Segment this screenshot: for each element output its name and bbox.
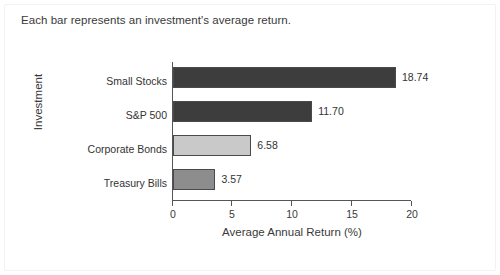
- category-label: Treasury Bills: [104, 177, 167, 189]
- category-label: Small Stocks: [106, 75, 167, 87]
- y-axis-title: Investment: [32, 52, 44, 152]
- bar-treasury-bills: [173, 169, 215, 190]
- x-axis-tick-label: 5: [229, 208, 235, 220]
- x-axis-tick-label: 0: [170, 208, 176, 220]
- x-axis-tick: [172, 201, 173, 206]
- category-label-group: Small Stocks S&P 500 Corporate Bonds Tre…: [55, 62, 167, 200]
- x-axis-tick: [411, 201, 412, 206]
- x-axis-tick: [231, 201, 232, 206]
- bar-sp-500: [173, 101, 312, 122]
- x-axis-tick: [291, 201, 292, 206]
- category-label: S&P 500: [126, 109, 167, 121]
- chart-figure: Each bar represents an investment's aver…: [0, 0, 500, 275]
- x-axis-tick-label: 10: [286, 208, 298, 220]
- bar-value-label: 6.58: [257, 139, 277, 151]
- x-axis-title: Average Annual Return (%): [173, 226, 411, 238]
- plot-area: 0 5 10 15 20 18.74 11.70 6.58 3.57: [173, 62, 411, 200]
- chart-caption: Each bar represents an investment's aver…: [21, 14, 291, 26]
- bar-value-label: 18.74: [402, 71, 428, 83]
- category-label: Corporate Bonds: [88, 143, 167, 155]
- x-axis-tick: [351, 201, 352, 206]
- bar-corporate-bonds: [173, 135, 251, 156]
- x-axis-tick-label: 20: [406, 208, 418, 220]
- bar-value-label: 11.70: [318, 105, 344, 117]
- bar-small-stocks: [173, 67, 396, 88]
- x-axis-tick-label: 15: [346, 208, 358, 220]
- bar-value-label: 3.57: [221, 173, 241, 185]
